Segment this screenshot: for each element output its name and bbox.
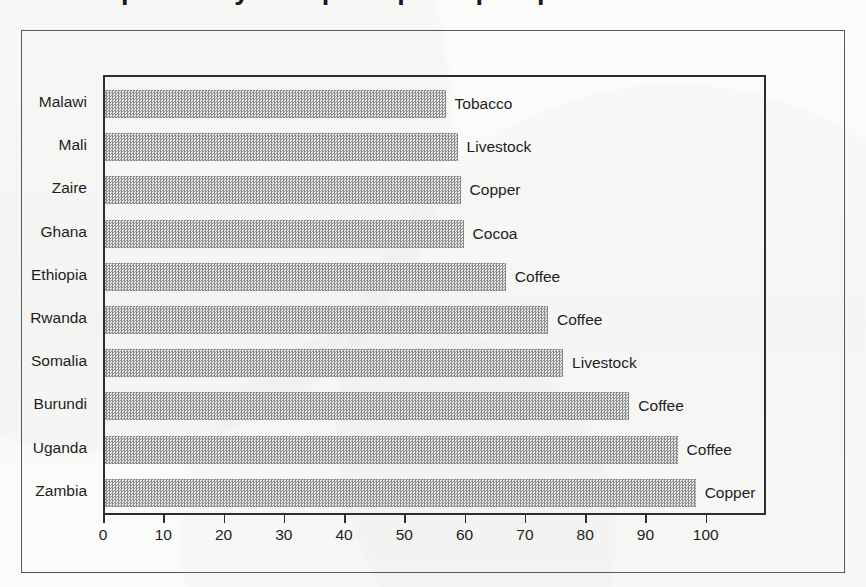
bar xyxy=(105,220,464,248)
category-label: Burundi xyxy=(34,390,87,418)
x-tick-label: 80 xyxy=(577,526,594,544)
x-tick-mark xyxy=(344,515,346,523)
x-tick-label: 10 xyxy=(155,526,172,544)
bar-value-label: Copper xyxy=(696,479,756,507)
x-tick-mark xyxy=(585,515,587,523)
bar xyxy=(105,306,548,334)
category-label: Ghana xyxy=(40,218,87,246)
x-tick-mark xyxy=(163,515,165,523)
bar xyxy=(105,479,696,507)
category-label: Somalia xyxy=(31,347,87,375)
x-tick-mark xyxy=(284,515,286,523)
chart-title-text: Dependency on a principal export product xyxy=(86,0,640,6)
bar-value-label: Coffee xyxy=(678,436,732,464)
x-tick-label: 30 xyxy=(275,526,292,544)
x-tick-label: 100 xyxy=(693,526,719,544)
bar xyxy=(105,133,458,161)
bar-value-label: Livestock xyxy=(458,133,532,161)
bar-value-label: Tobacco xyxy=(446,90,513,118)
x-tick-label: 60 xyxy=(456,526,473,544)
x-tick-label: 70 xyxy=(516,526,533,544)
bar-value-label: Livestock xyxy=(563,349,637,377)
x-tick-label: 20 xyxy=(215,526,232,544)
x-tick-mark xyxy=(224,515,226,523)
category-axis-labels: MalawiMaliZaireGhanaEthiopiaRwandaSomali… xyxy=(0,75,96,515)
x-axis: 0102030405060708090100 xyxy=(103,515,766,555)
category-label: Zambia xyxy=(35,477,87,505)
bar xyxy=(105,176,461,204)
x-tick-mark xyxy=(645,515,647,523)
bar-value-label: Coffee xyxy=(629,392,683,420)
x-tick-label: 90 xyxy=(637,526,654,544)
bar-value-label: Copper xyxy=(461,176,521,204)
category-label: Malawi xyxy=(39,88,87,116)
category-label: Zaire xyxy=(52,174,87,202)
x-tick-mark xyxy=(706,515,708,523)
x-tick-mark xyxy=(525,515,527,523)
x-tick-label: 50 xyxy=(396,526,413,544)
category-label: Mali xyxy=(59,131,87,159)
bar xyxy=(105,349,563,377)
x-tick-label: 40 xyxy=(335,526,352,544)
plot-area: TobaccoLivestockCopperCocoaCoffeeCoffeeL… xyxy=(103,75,766,515)
x-tick-mark xyxy=(465,515,467,523)
bar-value-label: Coffee xyxy=(506,263,560,291)
cropped-chart-title: Dependency on a principal export product xyxy=(0,0,866,11)
x-tick-label: 0 xyxy=(99,526,108,544)
category-label: Ethiopia xyxy=(31,261,87,289)
x-tick-mark xyxy=(103,515,105,523)
bar xyxy=(105,263,506,291)
bar-value-label: Cocoa xyxy=(464,220,518,248)
category-label: Rwanda xyxy=(30,304,87,332)
bar xyxy=(105,436,678,464)
category-label: Uganda xyxy=(33,434,87,462)
x-tick-mark xyxy=(404,515,406,523)
bar xyxy=(105,392,629,420)
bar xyxy=(105,90,446,118)
bar-value-label: Coffee xyxy=(548,306,602,334)
bars-layer: TobaccoLivestockCopperCocoaCoffeeCoffeeL… xyxy=(105,77,764,513)
